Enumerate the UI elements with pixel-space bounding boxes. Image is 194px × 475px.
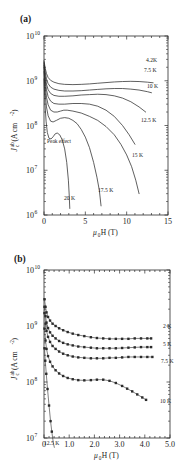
svg-text:(A cm: (A cm bbox=[10, 123, 19, 142]
curve-label: 20 K bbox=[64, 195, 75, 201]
data-point bbox=[121, 338, 123, 340]
data-point bbox=[115, 347, 117, 349]
data-point bbox=[140, 337, 142, 339]
data-point bbox=[90, 357, 92, 359]
curve-4-2k bbox=[44, 61, 153, 85]
x-tick-label: 4.0 bbox=[140, 440, 150, 449]
svg-text:6: 6 bbox=[35, 209, 38, 215]
data-point bbox=[134, 337, 136, 339]
svg-text:10: 10 bbox=[26, 211, 34, 220]
x-tick-label: 1.0 bbox=[64, 440, 74, 449]
svg-text:10: 10 bbox=[35, 264, 41, 270]
svg-text:8: 8 bbox=[35, 376, 38, 382]
svg-text:10: 10 bbox=[26, 434, 34, 443]
x-axis-title: μ0H (T) bbox=[93, 228, 118, 238]
data-point bbox=[44, 339, 46, 341]
panel-letter: (b) bbox=[14, 254, 26, 265]
curve-label: 12.5 K bbox=[141, 117, 156, 123]
y-axis-title: Jcab(A cm-2) bbox=[9, 109, 20, 152]
data-point bbox=[108, 347, 110, 349]
curve-12-5-k bbox=[44, 65, 135, 144]
data-point bbox=[96, 378, 98, 380]
svg-text:10: 10 bbox=[35, 30, 41, 36]
data-point bbox=[121, 347, 123, 349]
data-point bbox=[102, 357, 104, 359]
y-tick-label: 107 bbox=[26, 432, 38, 443]
data-point bbox=[72, 355, 74, 357]
data-point bbox=[83, 379, 85, 381]
svg-text:H (T): H (T) bbox=[102, 451, 119, 460]
data-point bbox=[83, 357, 85, 359]
data-point bbox=[83, 335, 85, 337]
svg-text:8: 8 bbox=[35, 120, 38, 126]
data-point bbox=[150, 346, 152, 348]
data-point bbox=[51, 322, 53, 324]
x-tick-label: 3.0 bbox=[115, 440, 125, 449]
panel-letter: (a) bbox=[20, 14, 31, 25]
data-point bbox=[54, 348, 56, 350]
x-tick-label: 5 bbox=[83, 217, 87, 226]
data-point bbox=[134, 356, 136, 358]
data-point bbox=[54, 325, 56, 327]
data-point bbox=[58, 340, 60, 342]
data-point bbox=[46, 388, 48, 390]
x-tick-label: 15 bbox=[164, 217, 172, 226]
data-point bbox=[136, 393, 138, 395]
data-point bbox=[43, 312, 45, 314]
data-point bbox=[126, 387, 128, 389]
data-point bbox=[43, 347, 45, 349]
curve-label: 4.2K bbox=[146, 57, 157, 63]
data-point bbox=[83, 346, 85, 348]
data-point bbox=[62, 353, 64, 355]
curve-label: 7.5 K bbox=[161, 358, 173, 364]
data-point bbox=[127, 338, 129, 340]
data-point bbox=[66, 331, 68, 333]
data-point bbox=[66, 343, 68, 345]
data-point bbox=[72, 378, 74, 380]
y-tick-label: 109 bbox=[26, 75, 38, 86]
data-point bbox=[140, 346, 142, 348]
data-point bbox=[72, 332, 74, 334]
data-point bbox=[44, 360, 46, 362]
peak-effect-annotation: Peak effect bbox=[47, 138, 71, 144]
data-point bbox=[43, 306, 45, 308]
data-point bbox=[146, 346, 148, 348]
data-point bbox=[134, 346, 136, 348]
data-point bbox=[102, 337, 104, 339]
data-point bbox=[108, 380, 110, 382]
data-point bbox=[62, 375, 64, 377]
data-point bbox=[43, 327, 45, 329]
data-point bbox=[121, 385, 123, 387]
curve-label: 2 K bbox=[163, 323, 171, 329]
data-point bbox=[54, 369, 56, 371]
curve-5-k bbox=[45, 307, 152, 348]
svg-text:c: c bbox=[14, 144, 20, 147]
curve-10-k bbox=[44, 64, 146, 112]
curve-10-k bbox=[45, 329, 147, 400]
data-point bbox=[66, 377, 68, 379]
data-point bbox=[90, 379, 92, 381]
data-point bbox=[49, 319, 51, 321]
panel-b-chart: 01.02.03.04.05.010710810910102 K5 K7.5 K… bbox=[0, 248, 194, 475]
data-point bbox=[121, 356, 123, 358]
svg-text:10: 10 bbox=[26, 378, 34, 387]
y-tick-label: 106 bbox=[26, 209, 38, 220]
data-point bbox=[77, 356, 79, 358]
svg-text:7: 7 bbox=[35, 432, 38, 438]
svg-text:7: 7 bbox=[35, 164, 38, 170]
x-tick-label: 10 bbox=[123, 217, 131, 226]
svg-text:J: J bbox=[10, 148, 19, 152]
data-point bbox=[51, 430, 53, 432]
svg-text:(A cm: (A cm bbox=[10, 351, 19, 370]
data-point bbox=[151, 356, 153, 358]
curve-2-k bbox=[45, 299, 152, 339]
x-tick-label: 2.0 bbox=[89, 440, 99, 449]
data-point bbox=[96, 357, 98, 359]
data-point bbox=[58, 372, 60, 374]
data-point bbox=[108, 338, 110, 340]
svg-text:): ) bbox=[10, 338, 19, 341]
data-point bbox=[127, 356, 129, 358]
data-point bbox=[45, 373, 47, 375]
data-point bbox=[146, 356, 148, 358]
svg-text:10: 10 bbox=[26, 77, 34, 86]
